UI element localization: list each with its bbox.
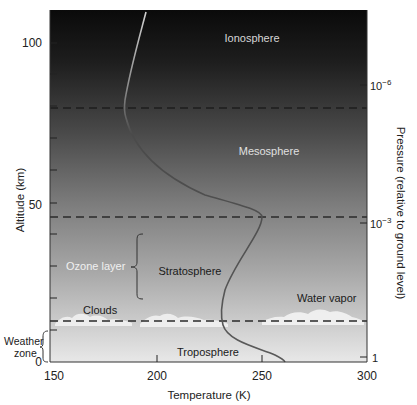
y2-tick-1e-3: 10−3 <box>370 216 392 230</box>
x-tick-300: 300 <box>357 369 377 383</box>
mesosphere-label: Mesosphere <box>239 145 300 157</box>
x-tick-150: 150 <box>44 369 64 383</box>
weather-zone-label-line2: zone <box>14 347 37 359</box>
ozone-layer-label: Ozone layer <box>66 260 126 272</box>
troposphere-label: Troposphere <box>177 346 239 358</box>
atmosphere-diagram: Ionosphere Mesosphere Stratosphere Tropo… <box>0 0 417 405</box>
water-vapor-label: Water vapor <box>297 292 357 304</box>
y2-tick-1e-6: 10−6 <box>370 78 392 92</box>
ionosphere-label: Ionosphere <box>224 32 279 44</box>
y-tick-100: 100 <box>22 36 42 50</box>
x-tick-200: 200 <box>147 369 167 383</box>
clouds-label: Clouds <box>83 304 118 316</box>
y-tick-50: 50 <box>29 198 43 212</box>
stratosphere-label: Stratosphere <box>159 265 222 277</box>
y-axis-title: Altitude (km) <box>14 168 26 233</box>
y-tick-0: 0 <box>35 355 42 369</box>
x-axis-title: Temperature (K) <box>167 389 250 401</box>
weather-zone-label-line1: Weather <box>4 335 44 347</box>
y2-tick-1: 1 <box>372 352 378 364</box>
x-tick-250: 250 <box>252 369 272 383</box>
y2-axis-title: Pressure (relative to ground level) <box>395 127 407 300</box>
